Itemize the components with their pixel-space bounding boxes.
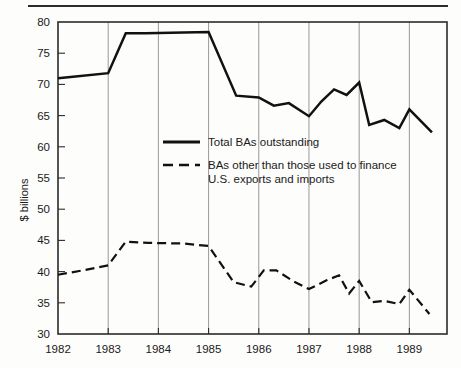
x-tick-label-1983: 1983 [95,343,121,355]
y-tick-label-75: 75 [37,47,50,59]
y-tick-label-60: 60 [37,141,50,153]
series-line-bas-other-than-trade-finance [58,242,429,314]
y-axis-label: $ billions [18,178,30,221]
x-tick-label-1989: 1989 [397,343,423,355]
y-tick-label-45: 45 [37,234,50,246]
legend-label-total-bas: Total BAs outstanding [208,136,319,148]
y-tick-label-80: 80 [37,16,50,28]
legend-label-bas-other-line1: BAs other than those used to finance [208,159,397,171]
y-axis-ticks [58,53,65,303]
y-tick-label-40: 40 [37,266,50,278]
x-tick-label-1982: 1982 [45,343,71,355]
x-tick-label-1987: 1987 [296,343,322,355]
x-axis-tick-labels: 19821983198419851986198719881989 [45,343,422,355]
y-tick-label-70: 70 [37,78,50,90]
chart-figure: 3035404550556065707580 19821983198419851… [0,0,461,368]
y-tick-label-35: 35 [37,297,50,309]
y-axis-tick-labels: 3035404550556065707580 [37,16,50,340]
plot-container: 3035404550556065707580 19821983198419851… [0,0,461,368]
legend-label-bas-other-line2: U.S. exports and imports [208,173,335,185]
y-tick-label-65: 65 [37,110,50,122]
line-chart-svg: 3035404550556065707580 19821983198419851… [0,0,461,368]
x-tick-label-1988: 1988 [346,343,372,355]
x-axis-ticks [108,328,409,334]
chart-legend: Total BAs outstanding BAs other than tho… [163,136,397,185]
y-tick-label-50: 50 [37,203,50,215]
x-tick-label-1985: 1985 [196,343,222,355]
x-tick-label-1986: 1986 [246,343,272,355]
y-tick-label-30: 30 [37,328,50,340]
series-line-total-bas-outstanding [58,32,432,132]
y-tick-label-55: 55 [37,172,50,184]
x-tick-label-1984: 1984 [146,343,172,355]
